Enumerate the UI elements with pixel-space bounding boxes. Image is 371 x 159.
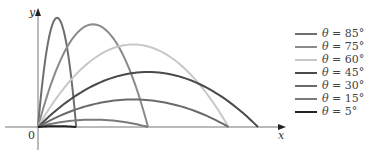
legend-label: θ = 75° — [322, 40, 364, 53]
legend-line-swatch — [295, 85, 317, 87]
y-axis-label: y — [28, 6, 36, 19]
legend-item: θ = 5° — [295, 105, 364, 118]
legend-label: θ = 45° — [322, 66, 364, 79]
legend-line-swatch — [295, 46, 317, 48]
legend-label: θ = 85° — [322, 27, 364, 40]
trajectory-5deg — [38, 126, 76, 127]
legend-item: θ = 30° — [295, 79, 364, 92]
trajectory-60deg — [38, 45, 229, 128]
trajectory-curves — [38, 18, 258, 127]
legend-item: θ = 45° — [295, 66, 364, 79]
legend-label: θ = 30° — [322, 79, 364, 92]
legend-item: θ = 15° — [295, 92, 364, 105]
origin-label: 0 — [28, 129, 35, 142]
legend-line-swatch — [295, 33, 317, 35]
legend-line-swatch — [295, 98, 317, 100]
legend-item: θ = 85° — [295, 27, 364, 40]
legend-line-swatch — [295, 72, 317, 74]
x-axis-label: x — [278, 129, 285, 142]
legend-item: θ = 75° — [295, 40, 364, 53]
legend-label: θ = 15° — [322, 92, 364, 105]
legend-line-swatch — [295, 111, 317, 113]
legend-label: θ = 5° — [322, 105, 357, 118]
legend: θ = 85°θ = 75°θ = 60°θ = 45°θ = 30°θ = 1… — [295, 27, 364, 118]
legend-line-swatch — [295, 59, 317, 61]
legend-item: θ = 60° — [295, 53, 364, 66]
y-axis-arrow-icon — [35, 8, 41, 16]
legend-label: θ = 60° — [322, 53, 364, 66]
